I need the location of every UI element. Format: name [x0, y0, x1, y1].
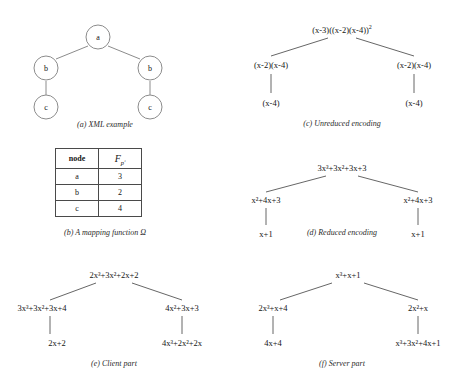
- expr-node-right: x²+4x+3: [403, 196, 432, 205]
- table-header-row: node Fpʹ: [56, 149, 142, 169]
- expr-node-left: 2x³+x+4: [258, 304, 287, 313]
- caption-panel-a: (a) XML example: [0, 120, 210, 129]
- table-row: b 2: [56, 185, 142, 201]
- expr-node-right-child: x³+3x²+4x+1: [396, 339, 441, 348]
- server-part-tree: x³+x+1 2x³+x+4 2x²+x 4x+4 x³+3x²+4x+1: [228, 258, 456, 354]
- expr-node-left: x²+4x+3: [251, 196, 280, 205]
- panel-xml-example: a b b c c (a) XML example: [0, 8, 210, 133]
- panel-client-part: 2x³+3x²+2x+2 3x³+3x²+3x+4 4x²+3x+3 2x+2 …: [0, 258, 228, 378]
- expr-node-root: (x-3)((x-2)(x-4))2: [312, 26, 372, 35]
- expr-node-root-text: (x-3)((x-2)(x-4)): [312, 25, 369, 35]
- cell-node-a: a: [56, 169, 99, 185]
- caption-panel-b: (b) A mapping function Ω: [0, 228, 210, 237]
- expr-node-root: x³+x+1: [336, 271, 361, 280]
- tree-node-c-right: c: [138, 95, 163, 120]
- f-symbol: Fpʹ: [115, 153, 126, 164]
- cell-node-b: b: [56, 185, 99, 201]
- client-part-tree: 2x³+3x²+2x+2 3x³+3x²+3x+4 4x²+3x+3 2x+2 …: [0, 258, 228, 354]
- column-header-f: Fpʹ: [99, 149, 142, 169]
- mapping-function-table: node Fpʹ a 3 b 2 c 4: [55, 148, 142, 217]
- panel-unreduced-encoding: (x-3)((x-2)(x-4))2 (x-2)(x-4) (x-2)(x-4)…: [228, 8, 456, 133]
- cell-node-c: c: [56, 201, 99, 217]
- cell-value-a: 3: [99, 169, 142, 185]
- expr-node-right: 2x²+x: [408, 304, 428, 313]
- xml-example-tree-edges: [0, 8, 210, 120]
- unreduced-encoding-tree: (x-3)((x-2)(x-4))2 (x-2)(x-4) (x-2)(x-4)…: [228, 8, 456, 118]
- cell-value-c: 4: [99, 201, 142, 217]
- expr-node-right-child: (x-4): [406, 99, 423, 108]
- expr-node-right: 4x²+3x+3: [165, 304, 198, 313]
- caption-panel-c: (c) Unreduced encoding: [228, 119, 456, 128]
- expr-node-left-child: 4x+4: [264, 339, 282, 348]
- tree-node-a-root: a: [86, 25, 111, 50]
- f-symbol-subscript: pʹ: [121, 159, 126, 166]
- expr-node-right-child: 4x³+2x²+2x: [162, 339, 202, 348]
- table-row: c 4: [56, 201, 142, 217]
- expr-node-left: (x-2)(x-4): [254, 61, 288, 70]
- column-header-node: node: [56, 149, 99, 169]
- tree-node-b-right: b: [138, 56, 163, 81]
- xml-example-tree: a b b c c: [0, 8, 210, 120]
- expr-node-right: (x-2)(x-4): [397, 61, 431, 70]
- caption-panel-f: (f) Server part: [228, 359, 456, 368]
- tree-node-b-left: b: [34, 56, 59, 81]
- expr-node-left-child: 2x+2: [48, 339, 66, 348]
- expr-node-root-exponent: 2: [369, 24, 372, 30]
- expr-node-root: 3x³+3x²+3x+3: [317, 164, 366, 173]
- tree-node-c-left: c: [34, 95, 59, 120]
- caption-panel-d: (d) Reduced encoding: [228, 228, 456, 237]
- caption-panel-e: (e) Client part: [0, 359, 228, 368]
- panel-server-part: x³+x+1 2x³+x+4 2x²+x 4x+4 x³+3x²+4x+1 (f…: [228, 258, 456, 378]
- expr-node-root: 2x³+3x²+2x+2: [89, 271, 138, 280]
- cell-value-b: 2: [99, 185, 142, 201]
- panel-mapping-function: node Fpʹ a 3 b 2 c 4 (b) A mapping funct…: [0, 148, 210, 248]
- expr-node-left-child: (x-4): [263, 99, 280, 108]
- table-row: a 3: [56, 169, 142, 185]
- panel-reduced-encoding: 3x³+3x²+3x+3 x²+4x+3 x²+4x+3 x+1 x+1 (d)…: [228, 148, 456, 248]
- expr-node-left: 3x³+3x²+3x+4: [17, 304, 66, 313]
